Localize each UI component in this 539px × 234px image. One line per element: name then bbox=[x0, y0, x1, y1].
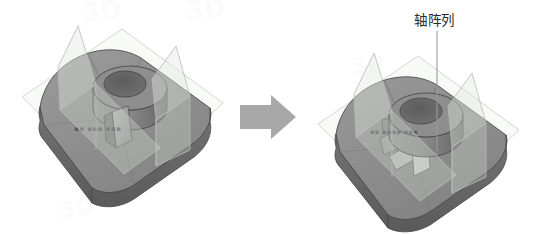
model-before: ▪▪ ▪▪▪ ▪▪▪ bbox=[22, 26, 223, 207]
boss-through-hole bbox=[104, 71, 146, 97]
cad-illustration: ▪▪ ▪▪▪ ▪▪▪ bbox=[0, 0, 539, 234]
model-after: ▪▪ ▪▪▪▪ ▪▪▪ bbox=[318, 31, 519, 232]
illustration-canvas: 3D 3D 3D 3D bbox=[0, 0, 539, 234]
arrow-shape bbox=[240, 95, 296, 139]
annotation-label-axis-array: 轴阵列 bbox=[414, 12, 455, 28]
transition-arrow bbox=[240, 95, 296, 139]
boss-through-hole bbox=[400, 98, 442, 124]
